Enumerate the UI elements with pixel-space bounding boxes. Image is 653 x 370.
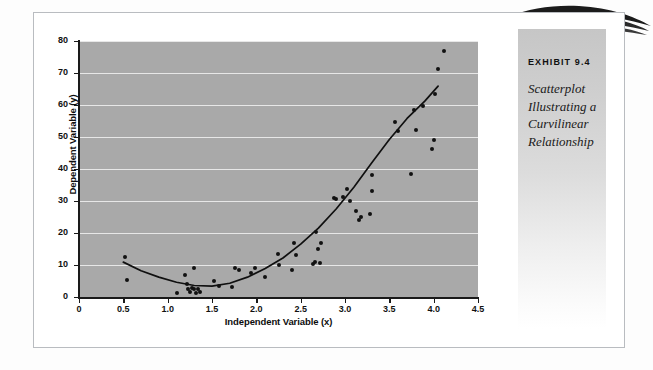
data-point [183,273,187,277]
data-point [319,241,323,245]
exhibit-caption-line: Relationship [528,133,606,151]
data-point [276,252,280,256]
x-tick-mark [389,298,390,303]
y-tick-mark [74,265,78,266]
data-point [354,209,358,213]
data-point [370,189,374,193]
gridline [79,233,478,234]
exhibit-number: EXHIBIT 9.4 [528,57,606,67]
x-tick-label: 2.0 [238,304,274,314]
data-point [212,279,216,283]
gridline [79,41,478,42]
exhibit-caption-line: Illustrating a [528,98,606,116]
data-point [414,128,418,132]
data-point [430,147,434,151]
data-point [345,187,349,191]
data-point [359,215,363,219]
x-tick-label: 4.0 [416,304,452,314]
x-tick-label: 2.5 [283,304,319,314]
x-tick-label: 0 [61,304,97,314]
x-tick-label: 3.5 [371,304,407,314]
y-tick-label: 30 [34,195,68,205]
gridline [79,169,478,170]
data-point [198,290,202,294]
data-point [217,284,221,288]
data-point [409,172,413,176]
data-point [292,241,296,245]
data-point [316,247,320,251]
y-tick-label: 40 [34,163,68,173]
data-point [290,268,294,272]
x-tick-label: 0.5 [105,304,141,314]
exhibit-sidebar-content: EXHIBIT 9.4 ScatterplotIllustrating aCur… [528,57,606,150]
y-tick-label: 60 [34,99,68,109]
x-tick-mark [478,298,479,303]
x-tick-label: 1.0 [150,304,186,314]
gridline [79,137,478,138]
data-point [192,266,196,270]
data-point [123,255,127,259]
x-axis-line [78,297,479,299]
x-tick-label: 1.5 [194,304,230,314]
data-point [253,266,257,270]
x-tick-mark [168,298,169,303]
data-point [436,67,440,71]
data-point [341,195,345,199]
data-point [368,212,372,216]
data-point [348,199,352,203]
data-point [396,129,400,133]
plot-area [79,41,478,297]
x-tick-mark [79,298,80,303]
data-point [294,253,298,257]
gridline [79,201,478,202]
y-tick-mark [74,297,78,298]
exhibit-sidebar: EXHIBIT 9.4 ScatterplotIllustrating aCur… [518,29,606,329]
x-tick-mark [256,298,257,303]
data-point [175,291,179,295]
y-tick-label: 80 [34,35,68,45]
y-tick-mark [74,233,78,234]
y-tick-mark [74,41,78,42]
exhibit-caption-line: Scatterplot [528,80,606,98]
y-tick-label: 70 [34,67,68,77]
gridline [79,105,478,106]
data-point [263,275,267,279]
exhibit-caption: ScatterplotIllustrating aCurvilinearRela… [528,80,606,150]
data-point [412,108,416,112]
y-axis-line [78,40,80,298]
page-frame: 01020304050607080 00.51.01.52.02.53.03.5… [33,12,625,348]
exhibit-page: 01020304050607080 00.51.01.52.02.53.03.5… [0,0,653,370]
data-point [433,92,437,96]
data-point [432,138,436,142]
data-point [237,268,241,272]
data-point [230,285,234,289]
y-tick-label: 0 [34,291,68,301]
x-tick-mark [345,298,346,303]
scatter-chart: 01020304050607080 00.51.01.52.02.53.03.5… [34,13,514,349]
x-tick-mark [434,298,435,303]
gridline [79,73,478,74]
x-tick-mark [212,298,213,303]
y-axis-label: Dependent Variable (y) [67,60,78,230]
data-point [277,263,281,267]
data-point [334,197,338,201]
data-point [125,278,129,282]
y-tick-label: 10 [34,259,68,269]
data-point [185,282,189,286]
x-tick-mark [301,298,302,303]
data-point [188,290,192,294]
x-tick-label: 3.0 [327,304,363,314]
x-axis-label: Independent Variable (x) [79,316,478,327]
y-tick-label: 20 [34,227,68,237]
x-tick-mark [123,298,124,303]
data-point [442,49,446,53]
data-point [393,120,397,124]
data-point [421,104,425,108]
x-tick-label: 4.5 [460,304,496,314]
data-point [370,173,374,177]
data-point [313,260,317,264]
y-tick-label: 50 [34,131,68,141]
exhibit-caption-line: Curvilinear [528,115,606,133]
data-point [249,271,253,275]
